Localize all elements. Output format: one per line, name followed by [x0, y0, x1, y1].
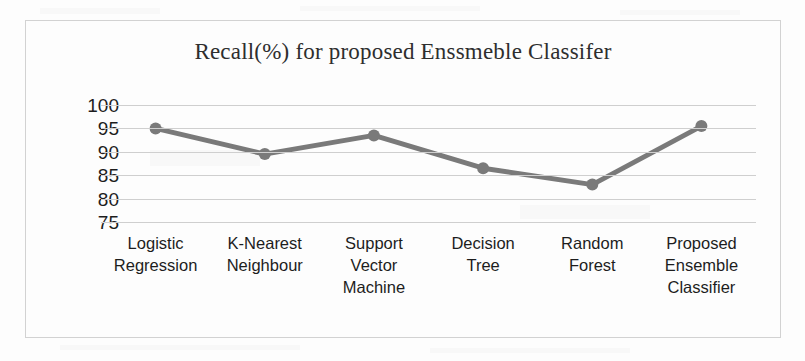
x-category-line: Tree: [429, 255, 538, 277]
x-category-line: Forest: [538, 255, 647, 277]
x-category-line: Random: [538, 233, 647, 255]
x-category-label-1: K-NearestNeighbour: [210, 233, 319, 298]
x-category-line: Neighbour: [210, 255, 319, 277]
x-category-label-5: ProposedEnsembleClassifier: [647, 233, 756, 298]
data-point-3[interactable]: [477, 162, 489, 174]
recall-line-series: [101, 105, 756, 222]
x-category-line: Regression: [101, 255, 210, 277]
x-category-label-0: LogisticRegression: [101, 233, 210, 298]
data-point-1[interactable]: [259, 148, 271, 160]
x-category-label-2: SupportVectorMachine: [319, 233, 428, 298]
gridline-90: [101, 152, 756, 153]
scan-artifact: [60, 345, 300, 350]
x-category-line: Classifier: [647, 277, 756, 299]
gridline-75: [101, 222, 756, 223]
gridline-80: [101, 199, 756, 200]
x-category-line: Proposed: [647, 233, 756, 255]
plot-area: [101, 105, 756, 222]
scan-artifact: [40, 8, 160, 14]
x-category-line: Decision: [429, 233, 538, 255]
scan-artifact: [300, 6, 480, 11]
scan-artifact: [430, 348, 630, 353]
x-category-line: Logistic: [101, 233, 210, 255]
x-category-line: Ensemble: [647, 255, 756, 277]
data-point-2[interactable]: [368, 129, 380, 141]
gridline-95: [101, 128, 756, 129]
gridline-100: [101, 105, 756, 106]
x-category-label-4: RandomForest: [538, 233, 647, 298]
scanned-page: Recall(%) for proposed Enssmeble Classif…: [0, 0, 805, 361]
data-point-5[interactable]: [695, 120, 707, 132]
scan-artifact: [620, 10, 740, 15]
data-point-4[interactable]: [586, 179, 598, 191]
x-category-line: Support: [319, 233, 428, 255]
x-category-line: Machine: [319, 277, 428, 299]
x-category-label-3: DecisionTree: [429, 233, 538, 298]
chart-container: Recall(%) for proposed Enssmeble Classif…: [25, 20, 781, 338]
x-category-line: K-Nearest: [210, 233, 319, 255]
gridline-85: [101, 175, 756, 176]
x-category-line: Vector: [319, 255, 428, 277]
chart-title: Recall(%) for proposed Enssmeble Classif…: [26, 39, 780, 65]
x-axis-category-labels: LogisticRegressionK-NearestNeighbourSupp…: [101, 233, 756, 298]
